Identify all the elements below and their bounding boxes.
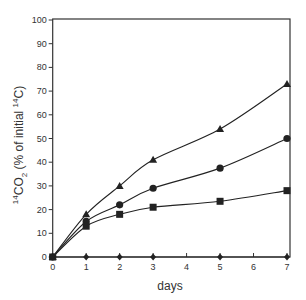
y-tick-label: 50 xyxy=(37,134,47,144)
y-title-sup: 14 xyxy=(11,195,20,204)
y-tick-label: 80 xyxy=(37,62,47,72)
square-marker xyxy=(83,223,90,230)
diamond-marker xyxy=(117,254,123,261)
x-tick-label: 3 xyxy=(151,262,156,272)
y-tick-label: 70 xyxy=(37,86,47,96)
y-tick-label: 100 xyxy=(32,15,47,25)
series-square xyxy=(49,187,290,260)
x-tick-label: 0 xyxy=(50,262,55,272)
y-title-main: CO xyxy=(12,177,26,195)
y-title-mid: (% of initial xyxy=(12,107,26,172)
x-axis-title: days xyxy=(157,279,182,293)
y-axis-title: 14CO2 (% of initial 14C) xyxy=(11,86,28,204)
y-tick-label: 90 xyxy=(37,39,47,49)
data-series xyxy=(49,80,291,261)
y-axis-ticks: 0102030405060708090100 xyxy=(32,15,53,262)
series-triangle xyxy=(49,80,291,260)
y-title-sup2: 14 xyxy=(11,99,20,108)
y-tick-label: 30 xyxy=(37,181,47,191)
series-circle xyxy=(49,135,291,261)
y-tick-label: 10 xyxy=(37,228,47,238)
x-tick-label: 6 xyxy=(251,262,256,272)
circle-marker xyxy=(150,185,157,192)
diamond-marker xyxy=(217,254,223,261)
diamond-marker xyxy=(150,254,156,261)
y-tick-label: 0 xyxy=(42,252,47,262)
x-tick-label: 2 xyxy=(117,262,122,272)
triangle-marker xyxy=(149,156,157,163)
square-marker xyxy=(116,211,123,218)
y-tick-label: 40 xyxy=(37,157,47,167)
diamond-marker xyxy=(83,254,89,261)
x-tick-label: 4 xyxy=(184,262,189,272)
triangle-marker xyxy=(216,125,224,132)
square-marker xyxy=(284,187,291,194)
circle-marker xyxy=(116,201,123,208)
y-tick-label: 60 xyxy=(37,110,47,120)
x-tick-label: 5 xyxy=(218,262,223,272)
x-tick-label: 1 xyxy=(84,262,89,272)
circle-marker xyxy=(216,165,223,172)
square-marker xyxy=(217,198,224,205)
x-tick-label: 7 xyxy=(284,262,289,272)
circle-marker xyxy=(283,135,290,142)
line-chart: 0102030405060708090100 01234567 days xyxy=(0,0,306,300)
square-marker xyxy=(150,204,157,211)
diamond-marker xyxy=(284,254,290,261)
y-title-sub: 2 xyxy=(20,173,29,177)
y-title-end: C) xyxy=(12,86,26,99)
y-tick-label: 20 xyxy=(37,205,47,215)
